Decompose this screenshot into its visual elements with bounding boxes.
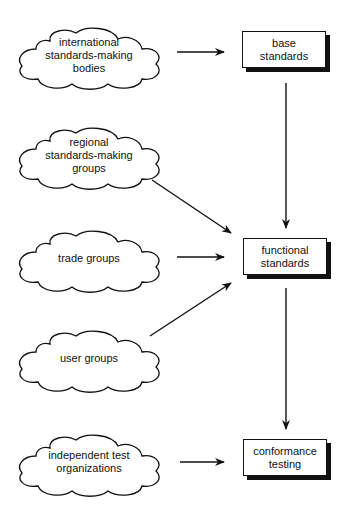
box-functional: functional standards xyxy=(243,238,327,275)
arrow-user-to-functional xyxy=(150,283,231,336)
source-label-user: user groups xyxy=(29,334,149,382)
source-label-regional: regional standards-making groups xyxy=(29,131,149,179)
box-label-conformance: conformance testing xyxy=(244,440,326,475)
box-base: base standards xyxy=(242,31,326,68)
box-conformance: conformance testing xyxy=(243,439,327,476)
source-label-international: international standards-making bodies xyxy=(29,31,149,79)
box-label-base: base standards xyxy=(243,32,325,67)
source-label-independent: independent test organizations xyxy=(29,438,149,486)
arrow-regional-to-functional xyxy=(152,180,231,233)
source-label-trade: trade groups xyxy=(29,234,149,282)
box-label-functional: functional standards xyxy=(244,239,326,274)
